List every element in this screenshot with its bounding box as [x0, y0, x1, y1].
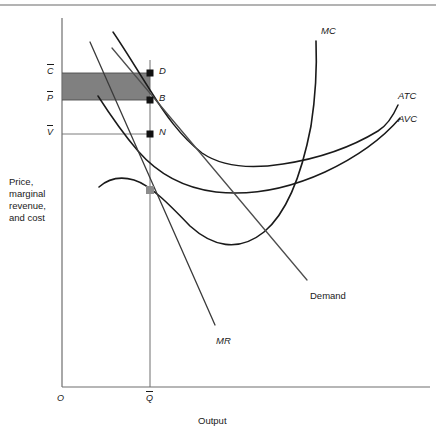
x-axis-caption: Output — [198, 415, 227, 427]
demand-line — [112, 48, 307, 280]
y-axis-caption-line-1: Price, — [9, 176, 61, 188]
economics-figure: C P V O Q Output Price, marginal revenue… — [0, 0, 436, 432]
point-label-d: D — [159, 65, 166, 77]
marker-point-d — [147, 70, 154, 77]
avc-curve — [98, 96, 400, 193]
curve-label-avc: AVC — [398, 113, 417, 125]
marker-point-n — [147, 131, 154, 138]
point-label-n: N — [159, 126, 166, 138]
mr-line — [90, 42, 215, 325]
y-tick-label-c-bar: C — [47, 66, 54, 77]
curve-label-demand: Demand — [310, 290, 346, 302]
y-tick-label-p-bar: P — [47, 93, 53, 104]
marker-mr-equals-mc — [146, 186, 154, 194]
x-tick-label-q-bar: Q — [146, 393, 153, 404]
curve-label-atc: ATC — [398, 90, 416, 102]
y-tick-p-letter: P — [47, 93, 53, 104]
y-axis-caption-line-3: revenue, — [9, 200, 61, 212]
point-label-b: B — [159, 92, 165, 104]
y-tick-v-letter: V — [47, 127, 53, 138]
y-axis-caption: Price, marginal revenue, and cost — [9, 176, 61, 225]
y-axis-caption-line-2: marginal — [9, 188, 61, 200]
plot-canvas — [0, 0, 436, 432]
x-tick-q-letter: Q — [146, 393, 153, 404]
y-axis-caption-line-4: and cost — [9, 212, 61, 224]
curve-label-mr: MR — [216, 335, 231, 347]
curve-label-mc: MC — [321, 25, 336, 37]
origin-label: O — [57, 393, 64, 404]
marker-point-b — [147, 97, 154, 104]
y-tick-label-v-bar: V — [47, 127, 53, 138]
y-tick-c-letter: C — [47, 66, 54, 77]
